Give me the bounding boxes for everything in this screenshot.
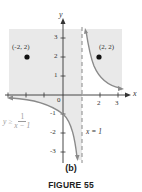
point-right-label: (2, 2) bbox=[99, 43, 114, 51]
y-tick-label-2: 2 bbox=[54, 52, 58, 60]
x-tick-label-3: 3 bbox=[115, 99, 119, 107]
inequality-fraction: 1 x − 1 bbox=[14, 113, 30, 130]
x-axis-label: x bbox=[133, 89, 137, 98]
point-left-label: (-2, 2) bbox=[12, 43, 30, 51]
y-axis-label: y bbox=[59, 10, 63, 19]
inequality-label: y ≥ 1 x − 1 bbox=[3, 113, 30, 130]
y-tick-label-1: 1 bbox=[54, 71, 58, 79]
origin-label: 0 bbox=[57, 96, 61, 104]
x-tick-label-2: 2 bbox=[97, 99, 101, 107]
inequality-lhs: y ≥ bbox=[3, 117, 12, 126]
subfigure-caption: (b) bbox=[0, 163, 142, 173]
figure-caption: FIGURE 55 bbox=[0, 180, 142, 190]
y-tick-label-neg3: -3 bbox=[50, 147, 56, 155]
y-tick-label-3: 3 bbox=[54, 33, 58, 41]
y-tick-label-neg1: -1 bbox=[50, 109, 56, 117]
asymptote-label: x = 1 bbox=[86, 127, 102, 136]
y-tick-label-neg2: -2 bbox=[50, 128, 56, 136]
inequality-denominator: x − 1 bbox=[14, 122, 30, 130]
